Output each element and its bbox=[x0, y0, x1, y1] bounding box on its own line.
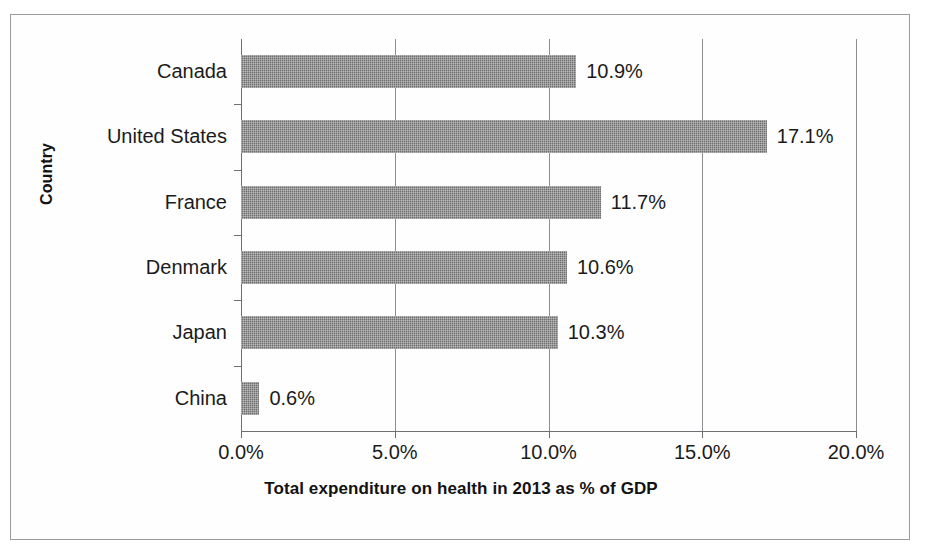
bar-row: Denmark10.6% bbox=[241, 235, 856, 300]
category-tick bbox=[234, 170, 241, 171]
bar-value-label: 10.6% bbox=[567, 251, 634, 284]
bar-row: France11.7% bbox=[241, 170, 856, 235]
bar[interactable] bbox=[241, 316, 558, 349]
clipped-header-text: …………………………………………… bbox=[40, 0, 900, 2]
bar[interactable] bbox=[241, 120, 767, 153]
chart-frame: Country Canada10.9%United States17.1%Fra… bbox=[10, 14, 910, 540]
x-tick-label: 15.0% bbox=[642, 441, 762, 464]
x-tick-0.0% bbox=[241, 431, 242, 438]
bar-row: United States17.1% bbox=[241, 104, 856, 169]
bar[interactable] bbox=[241, 186, 601, 219]
bar-value-label: 0.6% bbox=[259, 382, 315, 415]
clipped-header-text-strip: …………………………………………… bbox=[0, 0, 925, 12]
x-tick-label: 5.0% bbox=[335, 441, 455, 464]
bar-value-label: 11.7% bbox=[601, 186, 666, 219]
x-tick-10.0% bbox=[549, 431, 550, 438]
category-label: France bbox=[165, 186, 227, 219]
category-label: China bbox=[175, 382, 227, 415]
bar-row: China0.6% bbox=[241, 366, 856, 431]
category-tick bbox=[234, 300, 241, 301]
x-axis-title: Total expenditure on health in 2013 as %… bbox=[11, 479, 911, 499]
y-axis-title: Country bbox=[38, 94, 56, 254]
bar[interactable] bbox=[241, 55, 576, 88]
x-tick-15.0% bbox=[702, 431, 703, 438]
category-tick bbox=[234, 235, 241, 236]
x-tick-label: 10.0% bbox=[489, 441, 609, 464]
bar[interactable] bbox=[241, 251, 567, 284]
bar-row: Canada10.9% bbox=[241, 39, 856, 104]
x-tick-20.0% bbox=[856, 431, 857, 438]
category-tick bbox=[234, 104, 241, 105]
x-tick-label: 20.0% bbox=[796, 441, 916, 464]
x-tick-label: 0.0% bbox=[181, 441, 301, 464]
category-label: United States bbox=[107, 120, 227, 153]
category-label: Canada bbox=[157, 55, 227, 88]
plot-area: Canada10.9%United States17.1%France11.7%… bbox=[241, 39, 856, 431]
gridline-20.0% bbox=[856, 39, 857, 431]
bar-value-label: 17.1% bbox=[767, 120, 834, 153]
x-tick-5.0% bbox=[395, 431, 396, 438]
bar-value-label: 10.9% bbox=[576, 55, 643, 88]
bar-row: Japan10.3% bbox=[241, 300, 856, 365]
category-label: Japan bbox=[173, 316, 228, 349]
category-label: Denmark bbox=[146, 251, 227, 284]
category-tick bbox=[234, 366, 241, 367]
bar-value-label: 10.3% bbox=[558, 316, 625, 349]
bar[interactable] bbox=[241, 382, 259, 415]
